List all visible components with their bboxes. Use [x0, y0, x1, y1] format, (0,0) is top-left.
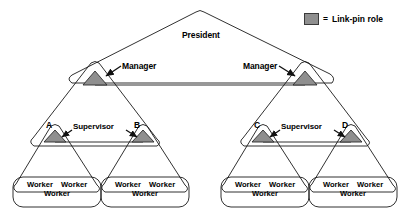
- worker-label: Worker: [252, 189, 278, 198]
- arrow-supervisor-d: [334, 130, 345, 137]
- node-label-b: B: [134, 121, 140, 130]
- worker-label: Worker: [115, 180, 141, 189]
- worker-label: Worker: [269, 180, 295, 189]
- linkpin-triangle-manager-right: [293, 71, 317, 85]
- worker-label: Worker: [132, 189, 158, 198]
- president-label: President: [182, 31, 220, 40]
- manager-right-label: Manager: [243, 62, 277, 71]
- worker-group-3: Worker Worker Worker: [222, 181, 308, 199]
- worker-row-bottom: Worker: [222, 190, 308, 199]
- node-label-c: C: [254, 121, 260, 130]
- worker-label: Worker: [235, 180, 261, 189]
- legend-label: Link-pin role: [332, 14, 383, 24]
- supervisor-left-label: Supervisor: [73, 123, 114, 131]
- worker-label: Worker: [149, 180, 175, 189]
- diagram-canvas: President Manager Manager Supervisor Sup…: [0, 0, 404, 218]
- manager-left-label: Manager: [122, 62, 156, 71]
- worker-row-bottom: Worker: [102, 190, 188, 199]
- arrow-supervisor-b: [126, 130, 137, 137]
- worker-group-1: Worker Worker Worker: [14, 181, 100, 199]
- node-label-a: A: [46, 121, 52, 130]
- worker-label: Worker: [27, 180, 53, 189]
- arrow-manager-left: [106, 66, 121, 76]
- arrow-manager-right: [279, 66, 295, 76]
- worker-group-4: Worker Worker Worker: [310, 181, 396, 199]
- legend-equals-sign: =: [323, 14, 328, 24]
- worker-row-bottom: Worker: [310, 190, 396, 199]
- worker-label: Worker: [44, 189, 70, 198]
- worker-label: Worker: [340, 189, 366, 198]
- node-label-d: D: [342, 121, 348, 130]
- worker-row-bottom: Worker: [14, 190, 100, 199]
- worker-group-2: Worker Worker Worker: [102, 181, 188, 199]
- worker-label: Worker: [61, 180, 87, 189]
- legend: = Link-pin role: [304, 13, 383, 25]
- supervisor-right-label: Supervisor: [281, 123, 322, 131]
- linkpin-swatch-icon: [304, 13, 319, 25]
- worker-label: Worker: [357, 180, 383, 189]
- linkpin-triangle-manager-left: [83, 71, 107, 85]
- worker-label: Worker: [323, 180, 349, 189]
